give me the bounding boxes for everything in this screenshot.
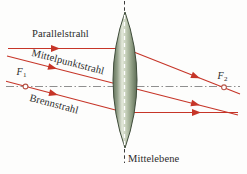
focal-point-f1-marker	[23, 84, 28, 89]
f2-symbol: F	[218, 70, 224, 81]
center-plane-label: Mittelebene	[128, 154, 179, 165]
parallel-ray-label: Parallelstrahl	[32, 29, 89, 40]
arrowhead-focal-refracted	[192, 109, 201, 116]
diagram-canvas	[0, 0, 247, 174]
arrowhead-center-refracted	[190, 100, 200, 109]
f1-symbol: F	[17, 66, 23, 77]
lens-ray-diagram: Parallelstrahl Mittelpunktstrahl Brennst…	[0, 0, 247, 174]
arrowhead-parallel-refracted	[190, 72, 201, 82]
focal-point-f2-label: F2	[218, 71, 228, 83]
arrowhead-parallel-incident	[51, 45, 60, 52]
f1-subscript: 1	[23, 71, 27, 79]
f2-subscript: 2	[224, 75, 228, 83]
focal-point-f2-marker	[222, 85, 227, 90]
focal-point-f1-label: F1	[17, 67, 27, 79]
